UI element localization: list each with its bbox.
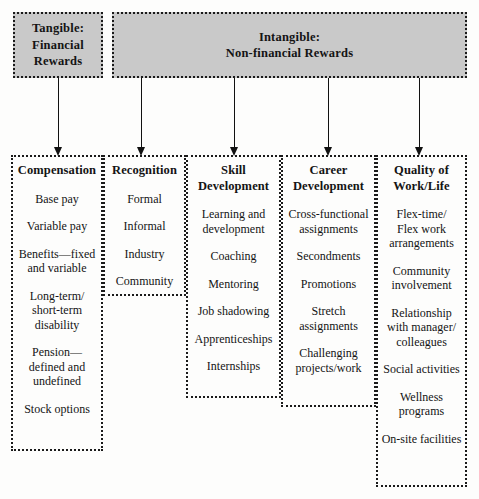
list-item: Communityinvolvement [381, 264, 462, 293]
category-title-skill-development: SkillDevelopment [191, 163, 276, 194]
arrow-to-skill-icon [234, 78, 235, 148]
list-item: Stock options [16, 402, 98, 417]
category-column-career-development: CareerDevelopment Cross-functionalassign… [281, 155, 376, 407]
list-item: On-site facilities [381, 432, 462, 447]
list-item: Internships [191, 359, 276, 374]
list-item: Relationshipwith manager/colleagues [381, 306, 462, 350]
list-item: Social activities [381, 362, 462, 377]
list-item: Secondments [286, 249, 371, 264]
category-column-skill-development: SkillDevelopment Learning anddevelopment… [186, 155, 281, 398]
category-title-career-development: CareerDevelopment [286, 163, 371, 194]
list-item: Apprenticeships [191, 332, 276, 347]
category-items-quality-of-work-life: Flex-time/Flex workarrangements Communit… [381, 207, 462, 446]
category-title-compensation: Compensation [16, 163, 98, 179]
top-box-intangible-label: Intangible:Non-financial Rewards [226, 29, 353, 62]
list-item: Coaching [191, 249, 276, 264]
list-item: Challengingprojects/work [286, 346, 371, 375]
list-item: Formal [108, 192, 181, 207]
list-item: Stretchassignments [286, 304, 371, 333]
category-items-compensation: Base pay Variable pay Benefits—fixedand … [16, 192, 98, 417]
list-item: Community [108, 274, 181, 289]
list-item: Job shadowing [191, 304, 276, 319]
category-column-recognition: Recognition Formal Informal Industry Com… [103, 155, 186, 296]
category-title-quality-of-work-life: Quality ofWork/Life [381, 163, 462, 194]
top-box-tangible: Tangible:FinancialRewards [13, 12, 103, 78]
list-item: Wellnessprograms [381, 390, 462, 419]
category-items-recognition: Formal Informal Industry Community [108, 192, 181, 289]
arrow-to-quality-icon [419, 78, 420, 148]
arrow-to-recognition-icon [141, 78, 142, 148]
list-item: Benefits—fixedand variable [16, 247, 98, 276]
total-rewards-diagram: Tangible:FinancialRewards Intangible:Non… [0, 0, 479, 499]
top-box-intangible: Intangible:Non-financial Rewards [112, 12, 467, 78]
list-item: Variable pay [16, 219, 98, 234]
list-item: Informal [108, 219, 181, 234]
category-title-recognition: Recognition [108, 163, 181, 179]
top-box-tangible-label: Tangible:FinancialRewards [32, 20, 84, 70]
category-column-quality-of-work-life: Quality ofWork/Life Flex-time/Flex worka… [376, 155, 467, 487]
list-item: Promotions [286, 277, 371, 292]
list-item: Mentoring [191, 277, 276, 292]
list-item: Flex-time/Flex workarrangements [381, 207, 462, 251]
list-item: Pension—defined andundefined [16, 345, 98, 389]
category-items-skill-development: Learning anddevelopment Coaching Mentori… [191, 207, 276, 374]
arrow-to-compensation-icon [58, 78, 59, 148]
category-items-career-development: Cross-functionalassignments Secondments … [286, 207, 371, 375]
list-item: Base pay [16, 192, 98, 207]
list-item: Long-term/short-termdisability [16, 289, 98, 333]
list-item: Learning anddevelopment [191, 207, 276, 236]
list-item: Cross-functionalassignments [286, 207, 371, 236]
category-column-compensation: Compensation Base pay Variable pay Benef… [11, 155, 103, 451]
list-item: Industry [108, 247, 181, 262]
arrow-to-career-icon [328, 78, 329, 148]
